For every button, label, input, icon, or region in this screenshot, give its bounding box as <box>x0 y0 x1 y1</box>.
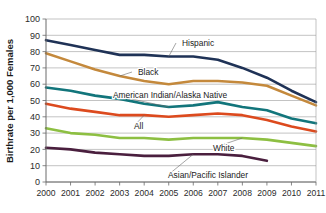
y-tick-labels-group: 0102030405060708090100 <box>25 14 40 187</box>
series-annotations-group: HispanicHispanicBlackBlackAmerican India… <box>113 38 248 180</box>
series-label-black: Black <box>138 67 159 77</box>
gridlines-group <box>43 19 317 182</box>
x-tick-labels-group: 2000200120022003200420052006200720082009… <box>36 182 325 198</box>
x-tick-label: 2001 <box>61 188 80 198</box>
x-tick-label: 2006 <box>184 188 203 198</box>
y-tick-label: 0 <box>35 177 40 187</box>
series-label-all: All <box>134 121 143 131</box>
x-tick-label: 2002 <box>86 188 105 198</box>
y-tick-label: 40 <box>30 112 40 122</box>
x-tick-label: 2004 <box>135 188 154 198</box>
y-tick-label: 10 <box>30 161 40 171</box>
chart-canvas: Birthrate per 1,000 Females 010203040506… <box>0 0 326 213</box>
x-tick-label: 2000 <box>36 188 55 198</box>
x-tick-label: 2011 <box>307 188 326 198</box>
series-label-asian-pacific-islander: Asian/Pacific Islander <box>168 170 248 180</box>
leader-line-hispanic <box>169 43 176 56</box>
y-tick-label: 50 <box>30 96 40 106</box>
x-tick-label: 2009 <box>257 188 276 198</box>
x-tick-label: 2003 <box>110 188 129 198</box>
y-tick-label: 90 <box>30 31 40 41</box>
y-axis-title: Birthrate per 1,000 Females <box>4 39 15 163</box>
y-tick-label: 60 <box>30 79 40 89</box>
x-tick-label: 2007 <box>208 188 227 198</box>
y-tick-label: 30 <box>30 128 40 138</box>
x-tick-label: 2010 <box>282 188 301 198</box>
birthrate-line-chart: Birthrate per 1,000 Females 010203040506… <box>0 0 326 213</box>
series-label-white: White <box>213 143 235 153</box>
series-label-american-indian-alaska-native: American Indian/Alaska Native <box>113 90 227 100</box>
series-line-all <box>46 104 316 132</box>
y-tick-label: 20 <box>30 145 40 155</box>
series-line-white <box>46 128 316 146</box>
series-label-hispanic: Hispanic <box>182 38 214 48</box>
leader-line-black <box>120 72 132 76</box>
x-tick-label: 2005 <box>159 188 178 198</box>
y-tick-label: 100 <box>25 14 40 24</box>
x-tick-label: 2008 <box>233 188 252 198</box>
y-tick-label: 70 <box>30 63 40 73</box>
y-tick-label: 80 <box>30 47 40 57</box>
